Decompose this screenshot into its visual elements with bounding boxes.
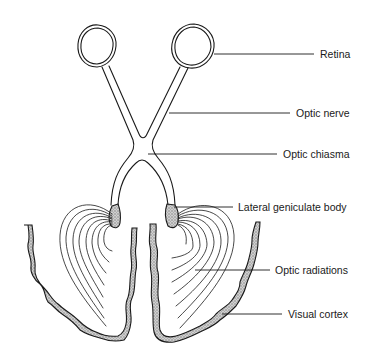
label-optic-radiations: Optic radiations: [275, 264, 348, 276]
diagram-drawing: [0, 0, 373, 356]
left-eye: [78, 25, 116, 67]
right-eye: [172, 24, 214, 68]
label-retina: Retina: [320, 48, 350, 60]
label-optic-chiasma: Optic chiasma: [283, 148, 350, 160]
optic-nerves-chiasma: [102, 66, 188, 205]
right-visual-cortex: [149, 222, 260, 342]
label-lateral-geniculate-body: Lateral geniculate body: [238, 201, 347, 213]
label-optic-nerve: Optic nerve: [296, 107, 350, 119]
label-visual-cortex: Visual cortex: [288, 308, 348, 320]
left-optic-radiations: [60, 205, 112, 326]
right-lateral-geniculate-body: [166, 204, 179, 228]
visual-pathway-diagram: Retina Optic nerve Optic chiasma Lateral…: [0, 0, 373, 356]
